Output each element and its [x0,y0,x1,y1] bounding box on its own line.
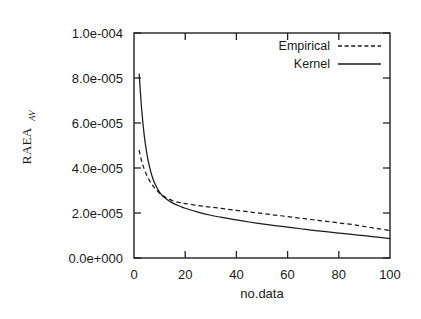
y-axis-title-main: RAEA [19,127,34,164]
x-tick-label: 20 [178,267,192,282]
y-tick-label: 4.0e-005 [72,161,123,176]
x-tick-label: 60 [280,267,294,282]
legend-label-empirical: Empirical [279,39,330,53]
x-axis-title: no.data [240,286,284,301]
x-tick-label: 80 [332,267,346,282]
chart-figure: 0.0e+0002.0e-0054.0e-0056.0e-0058.0e-005… [0,0,421,319]
x-tick-label: 0 [130,267,137,282]
x-tick-label: 40 [229,267,243,282]
y-tick-label: 6.0e-005 [72,116,123,131]
x-tick-label: 100 [379,267,401,282]
y-tick-label: 8.0e-005 [72,71,123,86]
line-chart-svg: 0.0e+0002.0e-0054.0e-0056.0e-0058.0e-005… [0,0,421,319]
y-tick-label: 1.0e-004 [72,26,123,41]
y-tick-label: 0.0e+000 [68,251,123,266]
y-tick-label: 2.0e-005 [72,206,123,221]
chart-background [0,0,421,319]
y-axis-title-subscript: AV [27,109,37,122]
legend-label-kernel: Kernel [294,57,330,71]
